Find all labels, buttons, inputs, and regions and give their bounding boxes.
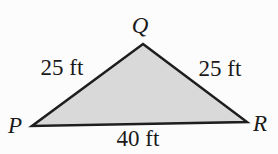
side-label-qr: 25 ft xyxy=(199,56,242,81)
triangle-figure: Q P R 25 ft 25 ft 40 ft xyxy=(0,0,278,154)
vertex-label-p: P xyxy=(7,113,22,138)
vertex-label-r: R xyxy=(252,111,267,136)
vertex-label-q: Q xyxy=(132,13,149,38)
side-label-pr: 40 ft xyxy=(117,126,160,151)
side-label-pq: 25 ft xyxy=(41,55,84,80)
triangle-diagram-svg: Q P R 25 ft 25 ft 40 ft xyxy=(0,0,278,154)
